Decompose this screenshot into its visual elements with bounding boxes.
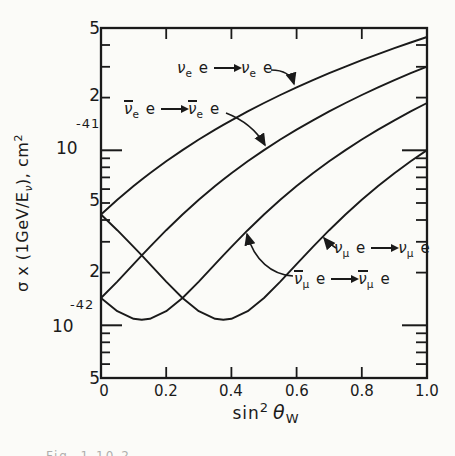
curve-label-nubar-e: νeeνee — [124, 100, 219, 120]
y-axis-title-sup: 2 — [12, 134, 25, 142]
x-tick-label-0.8: 0.8 — [342, 382, 382, 400]
x-tick-label-0.4: 0.4 — [211, 382, 251, 400]
electron-symbol: e — [380, 270, 389, 288]
electron-symbol: e — [316, 270, 325, 288]
y-axis-title: σ x (1GeV/Eν), cm2 — [12, 98, 36, 328]
nu-symbol: ν — [241, 59, 249, 77]
nubar-symbol: ν — [188, 100, 196, 118]
nubar-symbol: ν — [124, 100, 132, 118]
x-axis-title: sin2θW — [206, 400, 326, 426]
y-axis-title-pre: σ x (1GeV/E — [13, 192, 32, 292]
nu-symbol: ν — [398, 239, 406, 257]
right-arrow-icon — [331, 278, 352, 280]
curve-label-nu-e: νeeνee — [177, 59, 272, 79]
theta-symbol: θ — [273, 401, 286, 423]
y-tick-label-2e-41: 2 — [80, 85, 100, 105]
y-axis-title-sub: ν — [22, 185, 35, 192]
nu-symbol: ν — [177, 59, 185, 77]
x-tick-label-0.6: 0.6 — [277, 382, 317, 400]
cropped-caption-fragment: Fig. 1.10.2 — [46, 449, 286, 456]
nu-subscript: e — [132, 108, 138, 120]
x-axis-title-sub: W — [286, 411, 300, 426]
x-axis-title-base: sin — [232, 403, 259, 423]
nu-subscript: μ — [407, 247, 414, 259]
y-exponent-minus41: -41 — [76, 117, 100, 131]
x-axis-title-sup: 2 — [260, 400, 269, 415]
y-tick-label-2e-42: 2 — [80, 261, 100, 281]
nu-subscript: e — [185, 67, 191, 79]
nubar-symbol: ν — [294, 270, 302, 288]
nu-subscript: e — [249, 67, 255, 79]
nubar-symbol: ν — [358, 270, 366, 288]
electron-symbol: e — [199, 59, 208, 77]
nu-subscript: μ — [342, 247, 349, 259]
curve-label-nubar-mu: νμeνμe — [294, 270, 390, 290]
electron-symbol: e — [146, 100, 155, 118]
y-tick-label-1e-41: 10 — [56, 138, 76, 158]
electron-symbol: e — [356, 239, 365, 257]
electron-symbol: e — [210, 100, 219, 118]
x-tick-label-0: 0 — [84, 382, 124, 400]
right-arrow-icon — [371, 247, 392, 249]
y-exponent-minus42: -42 — [70, 298, 94, 312]
y-axis-title-mid: ), cm — [13, 142, 32, 185]
electron-symbol: e — [263, 59, 272, 77]
x-tick-label-1.0: 1.0 — [407, 382, 447, 400]
nu-subscript: μ — [367, 278, 374, 290]
nu-subscript: e — [196, 108, 202, 120]
right-arrow-icon — [161, 108, 182, 110]
electron-symbol: e — [420, 239, 429, 257]
nu-symbol: ν — [334, 239, 342, 257]
x-tick-label-0.2: 0.2 — [146, 382, 186, 400]
y-tick-label-5e-41: 5 — [80, 18, 100, 38]
y-tick-label-5e-42: 5 — [80, 190, 100, 210]
nu-subscript: μ — [302, 278, 309, 290]
y-tick-label-1e-42: 10 — [52, 316, 72, 336]
curve-label-nu-mu: νμeνμe — [334, 239, 430, 259]
right-arrow-icon — [214, 67, 235, 69]
figure-root: 5 2 10 -41 5 2 10 -42 5 0 0.2 0.4 0.6 0.… — [0, 0, 455, 456]
